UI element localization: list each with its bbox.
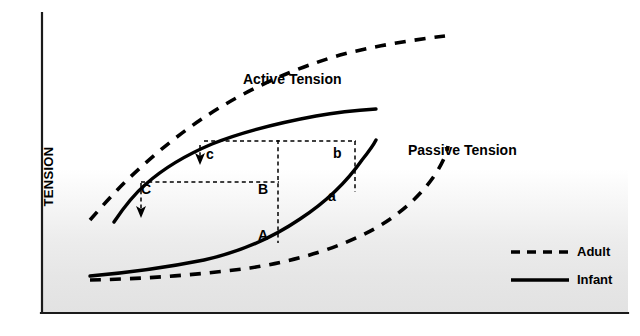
legend-group (511, 252, 569, 280)
legend-label-adult: Adult (577, 245, 610, 258)
y-axis-title: TENSION (42, 117, 55, 237)
legend-label-infant: Infant (577, 273, 612, 286)
annotation-lines-group (141, 140, 356, 243)
point-label-C: C (141, 182, 151, 196)
point-label-B: B (258, 182, 268, 196)
chart-figure: TENSION Active Tension Passive Tension A… (0, 0, 640, 336)
point-label-a: a (328, 189, 336, 203)
point-label-A: A (258, 228, 268, 242)
curve-label-active-tension: Active Tension (243, 72, 342, 86)
curve-active-tension-infant (114, 109, 376, 222)
point-label-b: b (333, 146, 342, 160)
curve-label-passive-tension: Passive Tension (408, 143, 517, 157)
curve-passive-tension-adult (90, 146, 448, 280)
axes-group (41, 13, 628, 313)
point-label-c: c (206, 147, 214, 161)
chart-canvas (0, 0, 640, 336)
